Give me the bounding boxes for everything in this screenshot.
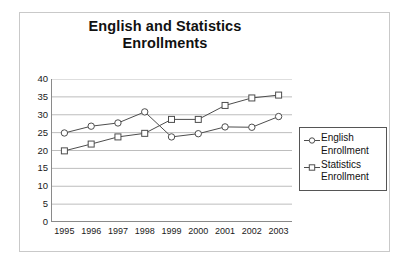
data-point xyxy=(115,134,121,140)
chart-legend: English Enrollment Statistics Enrollment xyxy=(299,127,387,191)
legend-item-statistics: Statistics Enrollment xyxy=(303,159,383,185)
data-point xyxy=(142,109,148,115)
data-point xyxy=(195,131,201,137)
plot-area xyxy=(51,79,292,222)
data-point xyxy=(61,130,67,136)
chart-title-line-2: Enrollments xyxy=(40,35,290,52)
data-point xyxy=(276,92,282,98)
data-point xyxy=(222,124,228,130)
chart-figure: English and Statistics Enrollments 05101… xyxy=(0,0,412,273)
data-point xyxy=(88,141,94,147)
data-point xyxy=(88,123,94,129)
data-series-layer xyxy=(61,92,282,154)
y-axis-tick-label: 40 xyxy=(26,74,48,84)
y-axis-tick-label: 20 xyxy=(26,146,48,156)
data-point xyxy=(249,124,255,130)
circle-marker-icon xyxy=(303,133,321,146)
legend-item-english: English Enrollment xyxy=(303,132,383,158)
data-point xyxy=(275,113,281,119)
y-axis-tick-label: 25 xyxy=(26,128,48,138)
square-marker-icon xyxy=(303,160,321,173)
chart-title: English and Statistics Enrollments xyxy=(40,18,290,52)
data-point xyxy=(168,134,174,140)
y-axis-tick-label: 15 xyxy=(26,164,48,174)
plot-svg xyxy=(51,79,292,222)
data-point xyxy=(169,116,175,122)
y-axis-tick-label: 35 xyxy=(26,92,48,102)
y-axis-tick-label: 10 xyxy=(26,182,48,192)
data-point xyxy=(61,148,67,154)
data-point xyxy=(142,130,148,136)
chart-title-line-1: English and Statistics xyxy=(40,18,290,35)
data-point xyxy=(222,102,228,108)
data-point xyxy=(249,95,255,101)
legend-label-statistics: Statistics Enrollment xyxy=(321,159,369,185)
gridlines xyxy=(51,79,292,222)
x-axis-tick-labels: 199519961997199819992000200120022003 xyxy=(51,227,292,243)
data-point xyxy=(115,120,121,126)
data-point xyxy=(195,116,201,122)
legend-label-english: English Enrollment xyxy=(321,132,369,158)
y-axis-tick-label: 5 xyxy=(26,199,48,209)
x-axis-tick-label: 2003 xyxy=(259,227,299,236)
y-axis-tick-label: 0 xyxy=(26,217,48,227)
y-axis-tick-label: 30 xyxy=(26,110,48,120)
y-axis-tick-labels: 0510152025303540 xyxy=(24,79,48,222)
